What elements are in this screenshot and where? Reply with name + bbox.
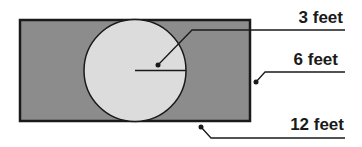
leader-6-feet <box>254 72 346 85</box>
geometry-diagram: 3 feet 6 feet 12 feet <box>0 0 362 147</box>
label-6-feet: 6 feet <box>294 50 339 69</box>
leader-dot <box>199 125 204 130</box>
leader-dot <box>156 63 161 68</box>
leader-dot <box>254 80 259 85</box>
label-3-feet: 3 feet <box>299 8 344 27</box>
label-12-feet: 12 feet <box>290 115 344 134</box>
